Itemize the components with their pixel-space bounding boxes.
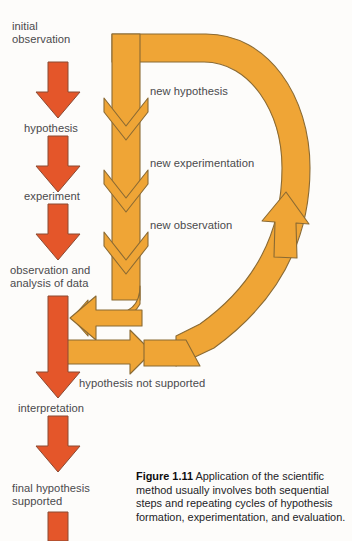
cycle-label-new-experimentation: new experimentation [150,157,254,170]
cycle-label-new-observation: new observation [150,219,232,232]
red-arrow-3 [36,204,80,260]
step-label-initial-observation: initialobservation [12,20,70,47]
step-label-final-hypothesis: final hypothesissupported [12,482,90,509]
step-label-interpretation: interpretation [18,402,84,415]
step-label-line1: observation and [10,264,90,276]
step-label-observation-analysis: observation andanalysis of data [10,264,90,291]
red-arrow-2 [36,136,80,192]
red-arrow-5 [36,416,80,472]
step-label-line1: experiment [24,190,80,202]
step-label-line2: supported [12,495,62,507]
step-label-experiment: experiment [24,190,80,203]
figure-caption: Figure 1.11 Application of the scientifi… [136,470,350,524]
feedback-label-hypothesis-not-supported: hypothesis not supported [79,377,205,390]
step-label-line1: initial [12,20,38,32]
step-label-line1: interpretation [18,402,84,414]
step-label-line2: analysis of data [10,277,89,289]
red-arrow-6-clipped [48,512,68,541]
step-label-line1: hypothesis [24,122,78,134]
step-label-hypothesis: hypothesis [24,122,78,135]
step-label-line1: final hypothesis [12,482,90,494]
cycle-label-new-hypothesis: new hypothesis [150,85,228,98]
scientific-method-figure: initialobservation hypothesis experiment… [0,0,352,541]
step-label-line2: observation [12,33,70,45]
figure-number: Figure 1.11 [136,470,193,482]
red-arrow-1 [36,62,80,118]
